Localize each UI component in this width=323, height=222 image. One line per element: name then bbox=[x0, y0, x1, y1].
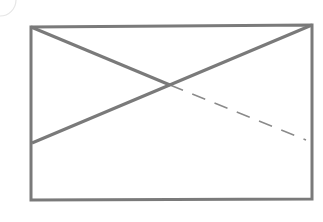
descending-solid-line bbox=[31, 27, 170, 85]
descending-dashed-line bbox=[170, 85, 306, 140]
geometric-diagram bbox=[0, 0, 323, 222]
outer-rectangle bbox=[31, 25, 312, 200]
corner-arc-artifact bbox=[0, 0, 16, 16]
